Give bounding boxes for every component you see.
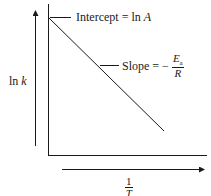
y-axis-prefix: ln xyxy=(9,74,21,88)
slope-num: E xyxy=(173,52,180,64)
intercept-var: A xyxy=(144,10,151,24)
slope-text: Slope = − xyxy=(122,59,169,73)
diagram-canvas xyxy=(0,0,211,196)
slope-num-sub: a xyxy=(180,59,183,67)
slope-den: R xyxy=(172,68,184,79)
slope-label: Slope = − Ea R xyxy=(122,53,184,79)
x-axis-label: 1 T xyxy=(125,176,133,196)
intercept-label: Intercept = ln A xyxy=(76,11,151,23)
intercept-text: Intercept = ln xyxy=(76,10,144,24)
x-axis-fraction: 1 T xyxy=(125,176,133,196)
y-axis-label: ln k xyxy=(9,75,27,87)
x-axis-den: T xyxy=(125,188,133,196)
slope-fraction: Ea R xyxy=(172,53,184,79)
y-axis-var: k xyxy=(21,74,26,88)
